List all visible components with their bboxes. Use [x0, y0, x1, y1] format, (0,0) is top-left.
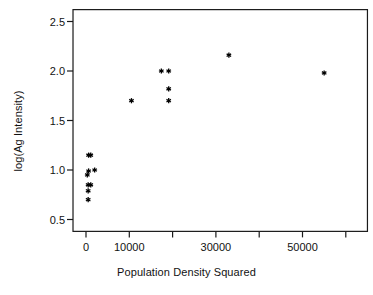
- x-tick-label: 10000: [114, 241, 145, 253]
- y-tick-label: 1.0: [29, 164, 65, 176]
- data-point: [227, 53, 232, 58]
- y-tick-label: 1.5: [29, 115, 65, 127]
- data-point: [166, 68, 171, 73]
- scatter-plot-figure: 0100003000050000 0.51.01.52.02.5 Populat…: [0, 0, 373, 295]
- x-tick-label: 30000: [201, 241, 232, 253]
- data-points: [85, 53, 326, 203]
- x-axis-ticks: [86, 231, 346, 237]
- data-point: [92, 167, 97, 172]
- data-point: [166, 86, 171, 91]
- x-axis-title: Population Density Squared: [0, 266, 373, 278]
- x-tick-label: 50000: [287, 241, 318, 253]
- y-axis-title: log(Ag Intensity): [12, 61, 24, 201]
- y-tick-label: 0.5: [29, 214, 65, 226]
- plot-frame: [73, 10, 367, 232]
- data-point: [322, 70, 327, 75]
- data-point: [129, 98, 134, 103]
- data-point: [159, 68, 164, 73]
- x-tick-label: 0: [83, 241, 89, 253]
- data-point: [86, 197, 91, 202]
- data-point: [166, 98, 171, 103]
- y-tick-label: 2.5: [29, 16, 65, 28]
- y-tick-label: 2.0: [29, 65, 65, 77]
- data-point: [86, 188, 91, 193]
- y-axis-ticks: [67, 22, 73, 220]
